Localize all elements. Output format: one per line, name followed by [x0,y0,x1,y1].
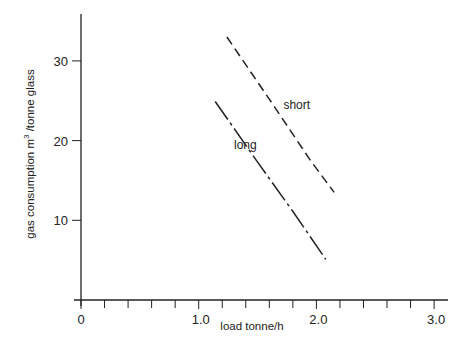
axes: 01.02.03.0102030 [54,14,448,327]
series-line-short [227,37,334,192]
x-tick-label: 3.0 [427,312,445,327]
y-tick-label: 30 [54,54,68,69]
y-tick-label: 20 [54,134,68,149]
series-line-long [215,102,326,260]
y-tick-label: 10 [54,213,68,228]
series-label-short: short [283,98,310,112]
x-tick-label: 1.0 [192,312,210,327]
y-axis-title: gas consumption m3 /tonne glass [22,69,36,239]
chart-canvas: 01.02.03.0102030 shortlong load tonne/h … [0,0,463,354]
series-group: shortlong [215,37,334,259]
x-tick-label: 2.0 [309,312,327,327]
x-axis-title: load tonne/h [220,320,283,332]
series-label-long: long [234,138,257,152]
x-tick-label: 0 [77,312,84,327]
